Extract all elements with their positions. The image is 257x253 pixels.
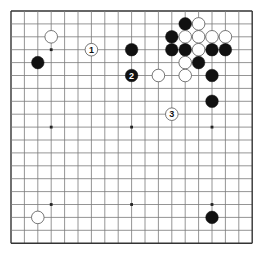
white-stone-icon (192, 31, 205, 44)
black-stone[interactable] (179, 18, 192, 31)
black-stone[interactable] (219, 43, 232, 56)
black-stone[interactable] (166, 43, 179, 56)
black-stone[interactable] (206, 95, 219, 108)
hoshi-point-icon (211, 203, 214, 206)
white-stone[interactable] (192, 43, 205, 56)
white-stone[interactable] (192, 31, 205, 44)
white-stone[interactable] (45, 31, 58, 44)
black-stone[interactable] (192, 56, 205, 69)
black-stone[interactable] (125, 43, 138, 56)
black-stone[interactable] (166, 31, 179, 44)
black-stone-icon (166, 43, 179, 56)
white-stone-icon (45, 31, 58, 44)
black-stone[interactable] (206, 211, 219, 224)
black-stone-icon (32, 56, 45, 69)
black-stone-icon (192, 56, 205, 69)
black-stone[interactable] (32, 56, 45, 69)
white-stone-icon (179, 31, 192, 44)
black-stone[interactable] (206, 69, 219, 82)
move-number-label: 2 (129, 71, 134, 81)
white-stone[interactable] (206, 31, 219, 44)
black-stone-icon (219, 43, 232, 56)
move-number-label: 1 (89, 45, 94, 55)
white-stone[interactable] (32, 211, 45, 224)
hoshi-point-icon (130, 203, 133, 206)
white-stone-icon (219, 31, 232, 44)
white-stone-icon (179, 56, 192, 69)
black-stone-icon (206, 95, 219, 108)
black-stone-move-2[interactable]: 2 (125, 69, 138, 82)
go-board[interactable]: 123 (0, 0, 257, 253)
hoshi-point-icon (50, 48, 53, 51)
black-stone-icon (206, 43, 219, 56)
white-stone-move-1[interactable]: 1 (85, 43, 98, 56)
white-stone-move-3[interactable]: 3 (166, 108, 179, 121)
black-stone-icon (206, 211, 219, 224)
black-stone-icon (166, 31, 179, 44)
move-number-label: 3 (169, 109, 174, 119)
white-stone[interactable] (179, 31, 192, 44)
black-stone[interactable] (179, 43, 192, 56)
black-stone-icon (206, 69, 219, 82)
hoshi-point-icon (50, 203, 53, 206)
white-stone-icon (206, 31, 219, 44)
black-stone[interactable] (206, 43, 219, 56)
black-stone-icon (125, 43, 138, 56)
white-stone-icon (32, 211, 45, 224)
white-stone[interactable] (179, 56, 192, 69)
black-stone-icon (179, 18, 192, 31)
black-stone-icon (179, 43, 192, 56)
white-stone[interactable] (192, 18, 205, 31)
go-board-grid[interactable]: 123 (0, 0, 257, 253)
white-stone-icon (152, 69, 165, 82)
hoshi-point-icon (130, 126, 133, 129)
hoshi-point-icon (50, 126, 53, 129)
white-stone-icon (192, 18, 205, 31)
hoshi-point-icon (211, 126, 214, 129)
white-stone-icon (192, 43, 205, 56)
white-stone[interactable] (219, 31, 232, 44)
white-stone-icon (179, 69, 192, 82)
white-stone[interactable] (152, 69, 165, 82)
white-stone[interactable] (179, 69, 192, 82)
